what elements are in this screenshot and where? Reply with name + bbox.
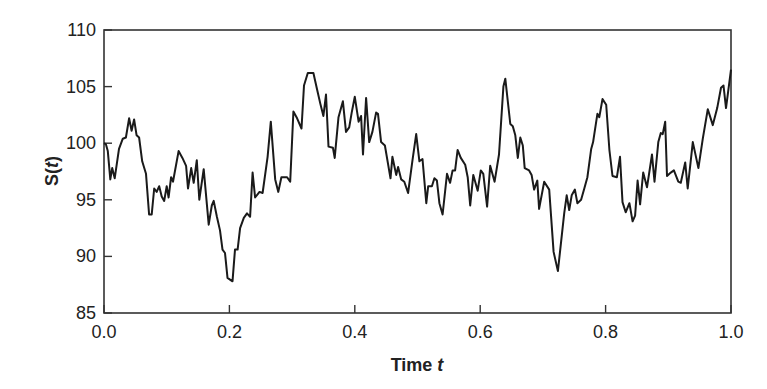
y-tick-label: 105 xyxy=(66,77,96,97)
x-tick-label: 0.4 xyxy=(342,322,367,342)
plot-area: 859095100105110 0.00.20.40.60.81.0 xyxy=(66,20,744,342)
x-tick-label: 0.2 xyxy=(217,322,242,342)
y-tick-label: 90 xyxy=(76,246,96,266)
x-tick-label: 1.0 xyxy=(718,322,743,342)
y-tick-label: 110 xyxy=(67,20,96,40)
price-path-line xyxy=(104,70,731,282)
y-axis-ticks: 859095100105110 xyxy=(66,20,112,323)
x-tick-label: 0.0 xyxy=(91,322,116,342)
x-tick-label: 0.8 xyxy=(593,322,618,342)
y-tick-label: 100 xyxy=(66,133,96,153)
y-axis-title: S(t) xyxy=(42,156,62,186)
x-axis-title: Time t xyxy=(391,355,445,375)
y-tick-label: 95 xyxy=(76,190,96,210)
y-tick-label: 85 xyxy=(76,303,96,323)
x-tick-label: 0.6 xyxy=(468,322,493,342)
line-chart: 859095100105110 0.00.20.40.60.81.0 Time … xyxy=(0,0,767,389)
x-axis-ticks: 0.00.20.40.60.81.0 xyxy=(91,305,743,342)
